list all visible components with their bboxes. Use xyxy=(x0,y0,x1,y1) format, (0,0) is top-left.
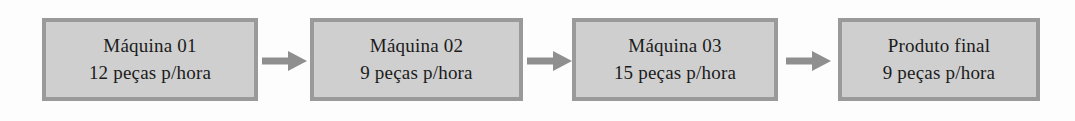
process-flow-diagram: Máquina 01 12 peças p/hora Máquina 02 9 … xyxy=(0,0,1075,121)
process-node-produto-final[interactable]: Produto final 9 peças p/hora xyxy=(838,18,1040,101)
process-node-maquina-03[interactable]: Máquina 03 15 peças p/hora xyxy=(572,18,778,101)
arrow-right-icon-1 xyxy=(262,50,308,72)
node-rate: 15 peças p/hora xyxy=(614,63,736,83)
node-rate: 9 peças p/hora xyxy=(360,63,473,83)
node-title: Máquina 02 xyxy=(370,36,463,56)
node-rate: 9 peças p/hora xyxy=(883,63,996,83)
arrow-right-icon-3 xyxy=(786,50,832,72)
node-title: Máquina 03 xyxy=(628,36,721,56)
node-title: Máquina 01 xyxy=(103,36,196,56)
node-title: Produto final xyxy=(888,36,990,56)
node-rate: 12 peças p/hora xyxy=(89,63,211,83)
process-node-maquina-01[interactable]: Máquina 01 12 peças p/hora xyxy=(42,18,258,101)
process-node-maquina-02[interactable]: Máquina 02 9 peças p/hora xyxy=(310,18,523,101)
arrow-right-icon-2 xyxy=(527,50,573,72)
